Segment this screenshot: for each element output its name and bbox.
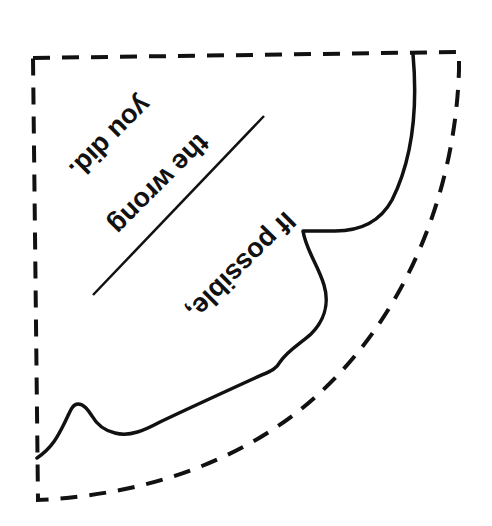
solid-shape-outline [37, 54, 415, 458]
pattern-template: If possible, the wrong you did. [0, 0, 492, 526]
text-line-if-possible: If possible, [181, 206, 302, 327]
text-line-you-did: you did. [63, 90, 157, 184]
pattern-drawing: If possible, the wrong you did. [0, 0, 492, 526]
